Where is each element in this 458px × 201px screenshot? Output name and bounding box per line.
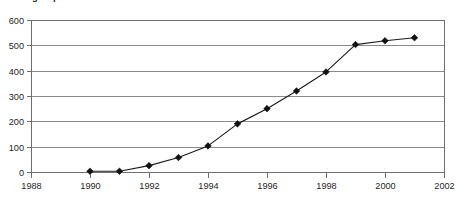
- y-tick-label-100: 100: [9, 143, 24, 153]
- x-tick-label-1994: 1994: [198, 181, 218, 191]
- y-tick-label-200: 200: [9, 117, 24, 127]
- data-point-1991: [116, 168, 123, 175]
- data-point-markers: [87, 34, 418, 174]
- x-tick-label-1998: 1998: [316, 181, 336, 191]
- x-tick-label-1996: 1996: [257, 181, 277, 191]
- y-tick-label-400: 400: [9, 67, 24, 77]
- data-series-line: [90, 38, 415, 172]
- x-tick-label-1992: 1992: [139, 181, 159, 191]
- x-tick-label-2000: 2000: [375, 181, 395, 191]
- data-point-2001: [411, 34, 418, 41]
- data-point-1993: [175, 154, 182, 161]
- gridlines: [31, 21, 444, 173]
- x-tick-label-2002: 2002: [434, 181, 454, 191]
- data-point-2000: [382, 37, 389, 44]
- series-line-reports: [90, 38, 415, 172]
- data-point-1990: [87, 168, 94, 175]
- y-tick-label-500: 500: [9, 41, 24, 51]
- y-tick-label-300: 300: [9, 92, 24, 102]
- line-chart-plot: 0100200300400500600 19881990199219941996…: [0, 0, 458, 201]
- data-point-1992: [146, 162, 153, 169]
- data-point-1997: [293, 88, 300, 95]
- y-tick-label-0: 0: [19, 168, 24, 178]
- data-point-1996: [264, 105, 271, 112]
- x-axis-tick-labels: 19881990199219941996199820002002: [21, 181, 454, 191]
- y-axis-tick-labels: 0100200300400500600: [9, 16, 24, 178]
- x-tick-label-1988: 1988: [21, 181, 41, 191]
- chart-container: ...ting Reports 0100200300400500600 1988…: [0, 0, 458, 201]
- y-tick-label-600: 600: [9, 16, 24, 26]
- x-tick-label-1990: 1990: [80, 181, 100, 191]
- axis-tick-marks: [27, 21, 445, 178]
